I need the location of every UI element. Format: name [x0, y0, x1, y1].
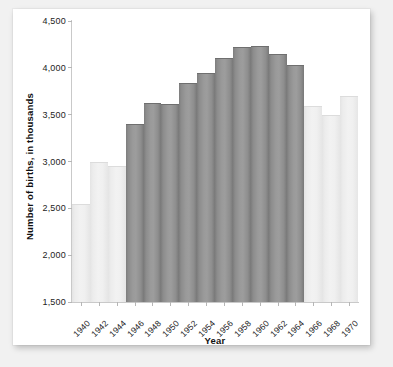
bar	[251, 46, 269, 302]
bar	[215, 58, 233, 302]
bar	[126, 124, 144, 302]
x-tick-mark	[152, 302, 153, 306]
x-axis-title: Year	[72, 335, 358, 346]
bar	[233, 47, 251, 302]
bar	[340, 96, 358, 302]
bar	[197, 73, 215, 302]
x-tick-mark	[242, 302, 243, 306]
x-axis-line	[71, 302, 359, 303]
y-tick-label: 2,500	[42, 203, 72, 213]
bar	[322, 115, 340, 302]
bar	[287, 65, 305, 302]
x-tick-mark	[117, 302, 118, 306]
x-tick-mark	[170, 302, 171, 306]
bar	[90, 162, 108, 302]
chart-card: 1,5002,0002,5003,0003,5004,0004,500 1940…	[13, 9, 370, 345]
x-tick-mark	[260, 302, 261, 306]
x-tick-mark	[295, 302, 296, 306]
y-tick-label: 1,500	[42, 297, 72, 307]
plot-area: 1,5002,0002,5003,0003,5004,0004,500 1940…	[72, 21, 358, 302]
figure-root: 1,5002,0002,5003,0003,5004,0004,500 1940…	[0, 0, 393, 367]
x-tick-mark	[81, 302, 82, 306]
bar	[269, 54, 287, 302]
bar	[179, 83, 197, 302]
bar	[304, 106, 322, 302]
x-tick-mark	[188, 302, 189, 306]
x-tick-mark	[331, 302, 332, 306]
y-axis-title: Number of births, in thousands	[24, 67, 35, 267]
y-tick-label: 4,000	[42, 63, 72, 73]
x-tick-mark	[224, 302, 225, 306]
y-tick-label: 4,500	[42, 16, 72, 26]
y-tick-label: 3,500	[42, 110, 72, 120]
bar	[108, 166, 126, 302]
y-tick-label: 3,000	[42, 157, 72, 167]
bar	[144, 103, 162, 302]
x-tick-mark	[135, 302, 136, 306]
x-tick-mark	[349, 302, 350, 306]
bar	[161, 104, 179, 302]
x-tick-mark	[278, 302, 279, 306]
x-tick-mark	[206, 302, 207, 306]
x-tick-mark	[99, 302, 100, 306]
bar	[72, 204, 90, 302]
x-tick-mark	[313, 302, 314, 306]
y-tick-label: 2,000	[42, 250, 72, 260]
